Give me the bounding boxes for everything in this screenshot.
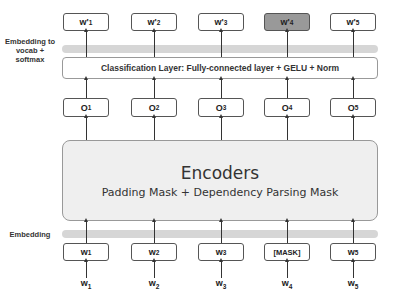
arrow-up-icon [287, 79, 288, 98]
encoder-subtitle: Padding Mask + Dependency Parsing Mask [102, 186, 339, 199]
embedding-label: Embedding [2, 230, 58, 239]
arrow-up-icon [353, 221, 354, 243]
raw-input-3: w3 [206, 278, 236, 290]
raw-input-4: w4 [272, 278, 302, 290]
arrow-up-icon [221, 261, 222, 278]
arrow-up-icon [221, 31, 222, 57]
arrow-up-icon [221, 221, 222, 243]
arrow-up-icon [353, 261, 354, 278]
raw-input-2: w2 [139, 278, 169, 290]
arrow-up-icon [154, 31, 155, 57]
arrow-up-icon [221, 79, 222, 98]
arrow-up-icon [353, 31, 354, 57]
arrow-up-icon [86, 79, 87, 98]
arrow-up-icon [287, 31, 288, 57]
raw-input-1: w1 [71, 278, 101, 290]
arrow-up-icon [154, 117, 155, 140]
encoder-block: Encoders Padding Mask + Dependency Parsi… [62, 140, 378, 221]
vocab-embedding-band [62, 45, 378, 53]
arrow-up-icon [287, 261, 288, 278]
arrow-up-icon [154, 79, 155, 98]
embedding-to-vocab-label: Embedding to vocab + softmax [2, 37, 58, 64]
arrow-up-icon [86, 31, 87, 57]
arrow-up-icon [287, 117, 288, 140]
arrow-up-icon [86, 117, 87, 140]
input-embedding-band [62, 230, 378, 238]
arrow-up-icon [154, 221, 155, 243]
arrow-up-icon [86, 261, 87, 278]
encoder-title: Encoders [181, 163, 259, 183]
raw-input-5: w5 [338, 278, 368, 290]
arrow-up-icon [221, 117, 222, 140]
arrow-up-icon [287, 221, 288, 243]
arrow-up-icon [353, 117, 354, 140]
arrow-up-icon [353, 79, 354, 98]
arrow-up-icon [86, 221, 87, 243]
arrow-up-icon [154, 261, 155, 278]
